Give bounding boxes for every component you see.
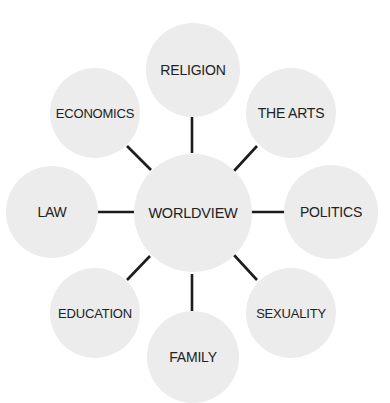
node-education: EDUCATION [50, 268, 140, 358]
node-the-arts: THE ARTS [246, 68, 336, 158]
connector-economics [127, 146, 151, 170]
connector-education [127, 256, 150, 280]
connector-the-arts [234, 146, 257, 171]
node-label-sexuality: SEXUALITY [256, 306, 326, 321]
node-label-the-arts: THE ARTS [258, 105, 325, 121]
node-label-law: LAW [37, 204, 67, 220]
node-sexuality: SEXUALITY [246, 268, 336, 358]
node-economics: ECONOMICS [50, 68, 140, 158]
node-family: FAMILY [147, 311, 239, 403]
node-politics: POLITICS [284, 165, 378, 259]
node-label-religion: RELIGION [160, 62, 225, 78]
node-religion: RELIGION [146, 23, 240, 117]
node-label-economics: ECONOMICS [56, 106, 135, 121]
node-label-education: EDUCATION [58, 306, 132, 321]
node-label-family: FAMILY [169, 349, 217, 365]
connector-sexuality [234, 255, 257, 280]
worldview-diagram: RELIGIONTHE ARTSPOLITICSSEXUALITYFAMILYE… [0, 0, 390, 403]
node-law: LAW [6, 166, 98, 258]
node-label-politics: POLITICS [300, 204, 362, 220]
center-label: WORLDVIEW [148, 205, 238, 221]
center-node-worldview: WORLDVIEW [134, 154, 252, 272]
